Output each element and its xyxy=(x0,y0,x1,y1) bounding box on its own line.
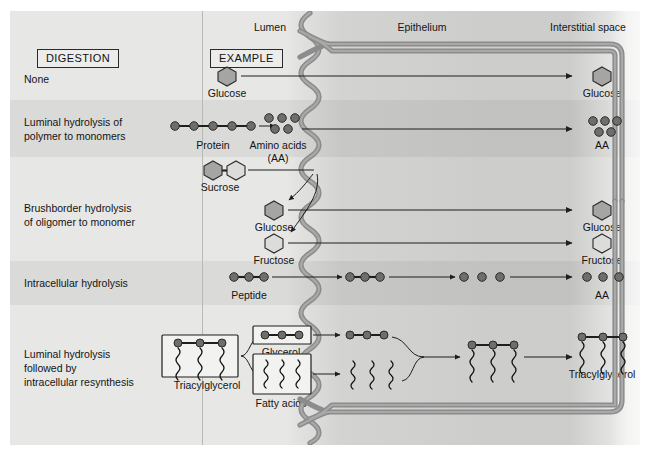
sucrose-hexagon-left xyxy=(204,161,222,180)
glycerol-molecule-intracellular xyxy=(346,331,388,339)
amino-acids-interstitial-row4 xyxy=(583,273,624,282)
sucrose-hexagon-right xyxy=(227,161,245,180)
glycerol-molecule xyxy=(261,331,303,339)
glucose-hexagon-interstitial xyxy=(593,67,611,86)
protein-chain xyxy=(171,122,256,131)
row-intracellular-hydrolysis-artwork xyxy=(230,273,624,282)
row-brushborder-artwork xyxy=(204,161,611,253)
amino-acid-cluster-lumen xyxy=(265,114,300,134)
row-luminal-hydrolysis-artwork xyxy=(171,114,622,137)
diagram-artwork xyxy=(10,11,640,445)
amino-acids-intracellular xyxy=(460,273,505,282)
peptide-chain-intracellular xyxy=(346,273,385,282)
arrow-glycerol-converge xyxy=(392,337,424,357)
cell-lateral-membrane-bottom xyxy=(300,201,622,425)
figure-canvas: Lumen Epithelium Interstitial space DIGE… xyxy=(0,0,648,456)
glucose-hexagon-lumen xyxy=(218,67,236,86)
fructose-hexagon-lumen xyxy=(265,234,283,253)
fructose-hexagon-interstitial xyxy=(593,234,611,253)
arrow-brushborder-to-glucose xyxy=(289,174,313,200)
row-none-artwork xyxy=(218,67,611,86)
glucose-hexagon-brushborder-interstitial xyxy=(593,201,611,220)
fatty-acids-intracellular xyxy=(351,361,393,389)
row-lipid-artwork xyxy=(162,326,627,394)
arrow-fatty-acids-converge xyxy=(402,357,424,381)
triacylglycerol-intracellular xyxy=(468,341,518,382)
diagram-panel: Lumen Epithelium Interstitial space DIGE… xyxy=(10,11,640,445)
glucose-hexagon-brushborder-lumen xyxy=(265,201,283,220)
peptide-chain-lumen xyxy=(230,273,269,282)
cell-lateral-membrane-top xyxy=(300,31,622,201)
